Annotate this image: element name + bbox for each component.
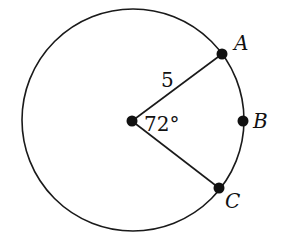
point-b xyxy=(238,116,249,127)
radius-label: 5 xyxy=(161,68,174,92)
label-a: A xyxy=(232,31,248,55)
radius-oa xyxy=(132,54,222,121)
circle-diagram: A B C 5 72° xyxy=(0,0,281,240)
label-c: C xyxy=(225,189,240,213)
angle-label: 72° xyxy=(144,112,179,136)
point-a xyxy=(217,49,228,60)
point-c xyxy=(214,183,225,194)
label-b: B xyxy=(252,109,268,133)
center-point xyxy=(127,116,138,127)
